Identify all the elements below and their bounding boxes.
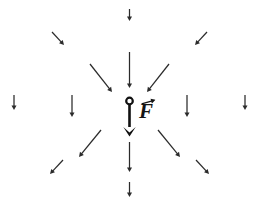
point-mass-marker bbox=[126, 98, 133, 105]
field-arrow-shaft bbox=[149, 64, 169, 89]
field-arrow-head bbox=[70, 112, 75, 117]
field-arrow-shaft bbox=[158, 130, 178, 154]
field-arrow-shaft bbox=[81, 130, 101, 154]
field-arrow-head bbox=[127, 167, 132, 172]
field-arrow-head bbox=[127, 16, 132, 21]
field-arrow-head bbox=[185, 112, 190, 117]
field-arrow-shaft bbox=[90, 64, 110, 89]
field-arrow-shaft bbox=[52, 32, 61, 42]
point-mass-group bbox=[126, 98, 133, 105]
field-arrow-head bbox=[12, 105, 17, 110]
net-force-arrow-head bbox=[123, 127, 135, 137]
field-diagram-canvas bbox=[0, 0, 258, 211]
net-force-vector-group bbox=[123, 105, 135, 137]
field-arrow-shaft bbox=[53, 160, 63, 171]
field-arrow-shaft bbox=[198, 32, 207, 42]
force-field-figure: F bbox=[0, 0, 258, 211]
field-arrow-head bbox=[127, 192, 132, 197]
field-arrow-head bbox=[243, 105, 248, 110]
field-arrow-head bbox=[127, 83, 132, 88]
field-arrow-shaft bbox=[196, 160, 206, 171]
